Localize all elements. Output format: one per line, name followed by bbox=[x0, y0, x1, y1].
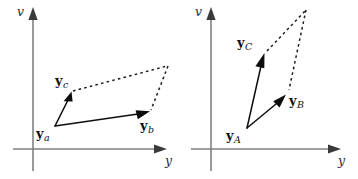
right-v-axis-arrowhead bbox=[206, 7, 215, 20]
right-v-axis-label: v bbox=[195, 6, 202, 19]
vector-diagram-figure: v y ya yb yc v y yA yB yC bbox=[0, 0, 358, 179]
left-vector-ya-label: ya bbox=[36, 127, 50, 143]
left-vector-ya-label-base: y bbox=[36, 126, 44, 141]
left-vector-yc-label-base: y bbox=[55, 73, 63, 88]
left-dashed-right bbox=[151, 66, 168, 110]
left-vector-yb-label-sub: b bbox=[148, 124, 154, 135]
left-v-axis bbox=[28, 7, 37, 171]
left-y-axis-label: y bbox=[165, 155, 172, 168]
right-y-axis bbox=[191, 144, 341, 153]
left-vector-yb-label-base: y bbox=[140, 118, 148, 133]
left-vector-yc-label-sub: c bbox=[63, 79, 68, 90]
left-vector-yc bbox=[55, 92, 73, 127]
right-vector-yA-label-base: y bbox=[226, 128, 234, 143]
left-dashed-top bbox=[73, 66, 167, 91]
left-vector-yc-shaft bbox=[55, 98, 69, 126]
left-vector-yc-label: yc bbox=[55, 74, 68, 90]
left-y-axis bbox=[13, 144, 167, 153]
right-panel bbox=[191, 7, 341, 171]
right-vector-yA-label: yA bbox=[226, 129, 241, 145]
right-dashed-right bbox=[289, 10, 306, 90]
left-panel bbox=[13, 7, 168, 171]
left-vector-yb bbox=[55, 110, 150, 126]
left-vector-yc-arrowhead bbox=[64, 92, 73, 102]
left-v-axis-arrowhead bbox=[28, 7, 37, 20]
left-v-axis-label: v bbox=[17, 6, 24, 19]
right-y-axis-label: y bbox=[338, 155, 345, 168]
right-vector-yC-arrowhead bbox=[255, 53, 264, 68]
right-vector-yB-label: yB bbox=[289, 94, 304, 110]
left-vector-yb-label: yb bbox=[140, 119, 154, 135]
right-vector-yB-label-sub: B bbox=[297, 99, 304, 110]
right-vector-yC-label-sub: C bbox=[245, 41, 252, 52]
right-vector-yB-label-base: y bbox=[289, 93, 297, 108]
right-vector-yC bbox=[247, 53, 265, 128]
right-vector-yC-label: yC bbox=[237, 36, 252, 52]
left-vector-yb-shaft bbox=[55, 114, 138, 126]
left-dashed-construction bbox=[73, 66, 168, 110]
right-vector-yC-label-base: y bbox=[237, 35, 245, 50]
left-vector-ya-label-sub: a bbox=[44, 132, 50, 143]
right-v-axis bbox=[206, 7, 215, 171]
right-dashed-construction bbox=[267, 10, 306, 90]
diagram-canvas bbox=[0, 0, 358, 179]
right-vector-yA-label-sub: A bbox=[234, 134, 241, 145]
right-dashed-left bbox=[267, 10, 306, 51]
